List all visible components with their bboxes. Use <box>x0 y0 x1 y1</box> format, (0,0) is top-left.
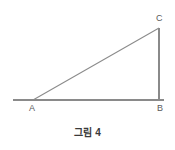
vertex-label-a: A <box>29 103 35 113</box>
hypotenuse-AC <box>33 28 159 100</box>
vertex-label-c: C <box>156 13 163 23</box>
figure-container: A B C 그림 4 <box>0 0 175 150</box>
figure-caption: 그림 4 <box>0 124 175 139</box>
vertex-label-b: B <box>157 103 163 113</box>
